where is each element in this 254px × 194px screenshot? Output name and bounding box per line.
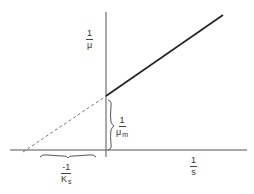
y-axis-label-numerator: 1: [86, 29, 93, 40]
y-intercept-denominator: μm: [116, 127, 128, 138]
x-axis-label-denominator: s: [191, 167, 196, 177]
x-intercept-denominator: Ks: [61, 174, 72, 185]
y-intercept-symbol: μ: [116, 127, 121, 137]
y-axis-label: 1 μ: [86, 29, 93, 50]
x-axis-label: 1 s: [190, 156, 197, 177]
x-intercept-symbol: K: [61, 174, 67, 184]
plot-canvas: [0, 0, 254, 194]
x-axis-label-numerator: 1: [190, 156, 197, 167]
y-axis-label-denominator: μ: [87, 40, 92, 50]
solid-regression-line: [106, 15, 223, 96]
y-intercept-numerator: 1: [119, 116, 126, 127]
y-intercept-label: 1 μm: [116, 116, 128, 138]
dashed-extrapolation-line: [23, 96, 106, 152]
x-intercept-subscript: s: [68, 178, 72, 185]
x-intercept-label: -1 Ks: [61, 163, 72, 185]
y-intercept-brace: [108, 100, 114, 150]
x-intercept-numerator: -1: [61, 163, 71, 174]
x-intercept-brace: [40, 155, 96, 158]
y-intercept-subscript: m: [122, 131, 128, 138]
